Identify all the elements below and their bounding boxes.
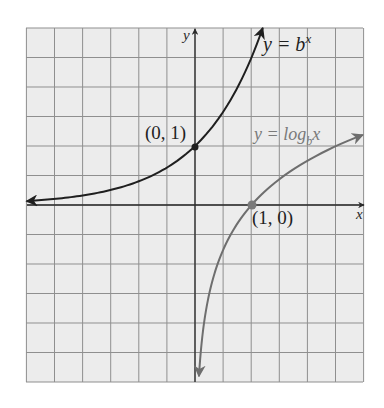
point-0-1 [192, 144, 199, 151]
y-axis-label: y [181, 27, 190, 43]
point-label-1-0: (1, 0) [252, 207, 293, 229]
x-axis-label: x [355, 206, 363, 222]
graph: x y (0, 1) (1, 0) y = bx y = logbx [0, 0, 384, 408]
point-label-0-1: (0, 1) [145, 122, 186, 144]
exp-curve-label: y = bx [261, 31, 311, 56]
